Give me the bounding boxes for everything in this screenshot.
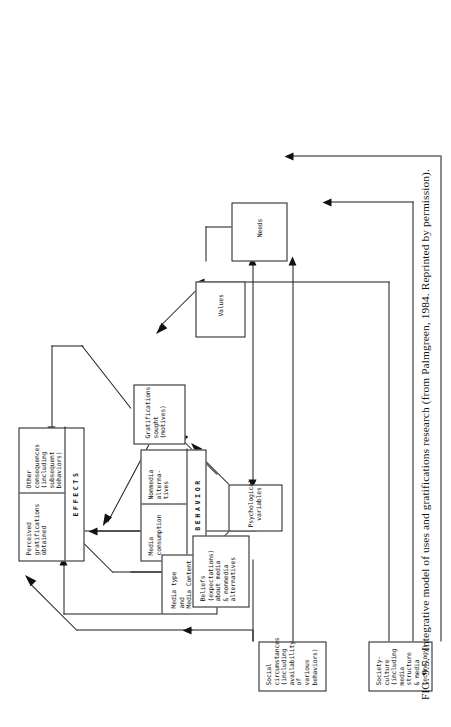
gratifications-sought-box[interactable]: Gratifications sought (motives) bbox=[133, 384, 185, 444]
values-box[interactable]: Values bbox=[195, 281, 245, 337]
arrowhead-gs-from-values bbox=[153, 322, 167, 336]
figure-caption: FIG. 9.5.Integrative model of uses and g… bbox=[419, 80, 431, 700]
psychological-variables-label: Psychological variables bbox=[247, 477, 262, 530]
mediatype-elbow-v bbox=[63, 613, 161, 614]
effects-band-label: EFFECTS bbox=[71, 426, 79, 560]
link-needs-to-values-run bbox=[205, 226, 206, 261]
arrowhead-needs-direct bbox=[288, 256, 296, 265]
needs-label: Needs bbox=[256, 195, 264, 260]
social-to-beliefs-run bbox=[252, 629, 253, 641]
psychological-variables-box[interactable]: Psychological variables bbox=[228, 484, 282, 531]
effects-cell-right-label: Other consequences (including subsequent… bbox=[25, 422, 63, 491]
social-circumstances-label: Social circumstances (including availabi… bbox=[265, 642, 318, 688]
link-needs-to-values-riser bbox=[205, 226, 235, 227]
arrowhead-beliefs-left-feed bbox=[182, 626, 191, 634]
mediatype-elbow-h bbox=[63, 561, 64, 614]
social-spine-diagonal bbox=[29, 583, 76, 630]
effects-cell-divider bbox=[19, 492, 64, 493]
arrowhead-mediatype-from-social bbox=[22, 572, 36, 586]
figure-page: Perceived gratifications obtained Other … bbox=[0, 0, 451, 727]
figure-number: FIG. 9.5. bbox=[419, 658, 431, 700]
social-spine-vertical bbox=[76, 629, 190, 630]
link-gs-to-effects-diag bbox=[81, 345, 131, 409]
arrowhead-effects-from-behavior bbox=[88, 527, 97, 535]
values-label: Values bbox=[217, 274, 225, 336]
arrowhead-needs-from-bottom bbox=[284, 152, 293, 160]
gratifications-sought-label: Gratifications sought (motives) bbox=[144, 385, 167, 441]
diagram-canvas: Perceived gratifications obtained Other … bbox=[0, 0, 451, 727]
social-circumstances-box[interactable]: Social circumstances (including availabi… bbox=[258, 641, 326, 691]
link-society-to-needs-direct bbox=[292, 261, 293, 641]
arrowhead-needs-from-society bbox=[322, 198, 331, 206]
link-psych-needs bbox=[252, 260, 253, 484]
behavior-cell-left-label: Media consumption bbox=[147, 500, 162, 558]
behavior-cell-divider bbox=[141, 503, 186, 504]
effects-box[interactable]: Perceived gratifications obtained Other … bbox=[18, 427, 84, 561]
link-values-to-gs bbox=[158, 290, 195, 327]
effects-cell-left-label: Perceived gratifications obtained bbox=[25, 489, 48, 558]
bottom-to-needs-riser bbox=[292, 155, 440, 156]
link-society-to-values bbox=[388, 281, 389, 641]
link-society-to-needs bbox=[412, 201, 413, 641]
link-gs-to-effects-riser bbox=[51, 345, 83, 346]
arrowhead-behavior-from-gs bbox=[99, 513, 112, 527]
link-gs-to-effects-run bbox=[51, 345, 52, 427]
media-type-and-content-label: Media type and Media Content bbox=[170, 555, 193, 611]
link-society-to-needs-riser bbox=[330, 201, 413, 202]
beliefs-feed-left2 bbox=[190, 629, 252, 630]
beliefs-label: Beliefs (expectations) about media & non… bbox=[199, 536, 237, 604]
beliefs-box[interactable]: Beliefs (expectations) about media & non… bbox=[192, 535, 249, 607]
behavior-cell-right-label: Nonmedia alterna- tives bbox=[147, 444, 170, 502]
figure-caption-text: Integrative model of uses and gratificat… bbox=[419, 169, 431, 651]
needs-box[interactable]: Needs bbox=[231, 202, 287, 261]
bottom-to-needs-run bbox=[440, 155, 441, 641]
